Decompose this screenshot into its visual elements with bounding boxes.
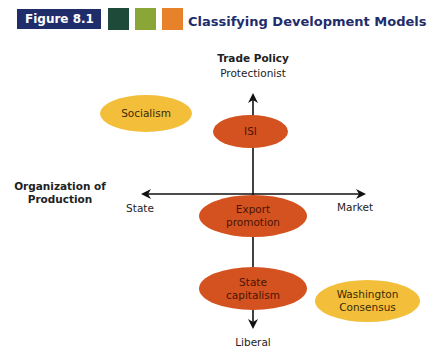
isi-node: ISI [213,115,288,148]
state-label: State [118,202,162,214]
export-promotion-node: Export promotion [199,195,307,237]
vertical-axis-title: Trade Policy [213,52,293,64]
horizontal-axis-title-line1: Organization of [10,180,110,193]
horizontal-axis-title-line2: Production [10,193,110,206]
washington-consensus-node: Washington Consensus [315,280,420,322]
horizontal-axis-title: Organization of Production [10,180,110,206]
socialism-node: Socialism [100,95,192,132]
state-capitalism-node: State capitalism [199,267,307,310]
export-promotion-label-line2: promotion [226,216,280,229]
protectionist-label: Protectionist [203,67,303,79]
liberal-label: Liberal [213,336,293,348]
washington-consensus-label-line1: Washington [337,288,399,301]
market-label: Market [330,201,380,213]
export-promotion-label-line1: Export [226,203,280,216]
state-capitalism-label-line2: capitalism [226,289,280,302]
washington-consensus-label-line2: Consensus [337,301,399,314]
isi-label: ISI [244,125,257,138]
state-capitalism-label-line1: State [226,276,280,289]
socialism-label: Socialism [121,107,171,120]
